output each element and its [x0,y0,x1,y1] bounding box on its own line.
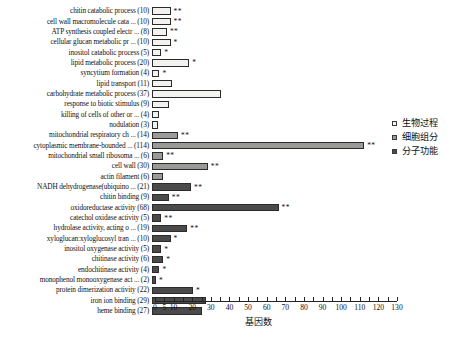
axis-tick-label: 90 [319,303,327,312]
significance-marker: * [174,39,178,46]
category-label: chitin catabolic process (10) [0,7,152,15]
bar [152,235,171,242]
bar [152,70,159,77]
bar-row: xyloglucan:xyloglucosyl tran ... (10)* [0,234,463,244]
category-label: chitinase activity (6) [0,255,152,263]
bar [152,276,156,283]
bar [152,163,208,170]
axis-tick-label: 5 [162,303,166,312]
bar-zone: * [152,37,463,47]
bar [152,287,193,294]
bar [152,225,187,232]
bar [152,142,364,149]
significance-marker: * [162,70,166,77]
bar-zone: ** [152,6,463,16]
bar [152,245,161,252]
significance-marker: ** [194,184,202,191]
category-label: nodulation (3) [0,121,152,129]
bar-row: actin filament (6) [0,172,463,182]
category-label: catechol oxidase activity (5) [0,214,152,222]
significance-marker: ** [170,28,178,35]
axis-tick-label: 80 [300,303,308,312]
bar-row: endochitinase activity (4)* [0,265,463,275]
legend-label: 生物过程 [402,118,438,128]
category-label: carbohydrate metabolic process (37) [0,90,152,98]
bar [152,18,171,25]
category-label: chitin binding (9) [0,193,152,201]
bar [152,80,172,87]
significance-marker: ** [211,163,219,170]
bar-row: chitin catabolic process (10)** [0,6,463,16]
bar-row: chitinase activity (6)* [0,254,463,264]
bar-zone: * [152,244,463,254]
bar-zone: ** [152,16,463,26]
axis-tick [155,297,156,301]
bar [152,39,171,46]
significance-marker: * [159,277,163,284]
bar [152,90,221,97]
axis-tick [397,297,398,301]
axis-tick [378,297,379,301]
bar-row: inositol catabolic process (5)* [0,47,463,57]
bar-row: catechol oxidase activity (5)** [0,213,463,223]
category-label: mitochondrial small ribosoma ... (6) [0,152,152,160]
bar-zone: ** [152,161,463,171]
axis-tick [220,297,221,301]
significance-marker: * [166,256,170,263]
bar [152,121,158,128]
bar-zone: ** [152,203,463,213]
axis-tick-label: 40 [226,303,234,312]
axis-tick [304,297,305,301]
x-axis [155,301,397,302]
category-label: monophenol monooxygenase act ... (2) [0,276,152,284]
bar-zone: * [152,68,463,78]
significance-marker: * [164,49,168,56]
bar-row: lipid transport (11) [0,78,463,88]
bar-zone: * [152,47,463,57]
axis-tick [350,297,351,301]
bar-row: NADH dehydrogenase(ubiquino ... (21)** [0,182,463,192]
significance-marker: * [162,266,166,273]
axis-tick [332,297,333,301]
category-label: oxidoreductase activity (68) [0,204,152,212]
axis-tick-label: 50 [244,303,252,312]
category-label: iron ion binding (29) [0,297,152,305]
axis-tick [388,297,389,301]
bar-row: chitin binding (9)** [0,192,463,202]
bar-zone: * [152,234,463,244]
bar-row: oxidoreductase activity (68)** [0,203,463,213]
bar [152,59,189,66]
bar-row: hydrolase activity, acting o ... (19)** [0,223,463,233]
category-label: inositol oxygenase activity (5) [0,245,152,253]
bar [152,173,163,180]
x-axis-label: 基因数 [0,315,463,328]
bar-row: inositol oxygenase activity (5)* [0,244,463,254]
category-label: lipid transport (11) [0,80,152,88]
legend-item-molecular-function[interactable]: 分子功能 [392,144,463,158]
bar-zone: ** [152,192,463,202]
bar-zone: ** [152,182,463,192]
significance-marker: * [192,59,196,66]
significance-marker: ** [174,8,182,15]
significance-marker: * [164,246,168,253]
bar [152,266,159,273]
legend-item-biological-process[interactable]: 生物过程 [392,116,463,130]
bar-row: cellular glucan metabolic pr ... (10)* [0,37,463,47]
legend-item-cellular-component[interactable]: 细胞组分 [392,130,463,144]
axis-tick [360,297,361,301]
go-enrichment-bar-chart: chitin catabolic process (10)**cell wall… [0,0,463,341]
bar-zone: ** [152,27,463,37]
category-label: heme binding (27) [0,307,152,315]
legend-label: 细胞组分 [402,132,438,142]
bar [152,183,191,190]
axis-tick [211,297,212,301]
category-label: cell wall macromolecule cata ... (10) [0,18,152,26]
legend-swatch-icon [392,135,397,140]
bar-zone [152,172,463,182]
category-label: syncytium formation (4) [0,69,152,77]
category-label: NADH dehydrogenase(ubiquino ... (21) [0,183,152,191]
axis-tick [369,297,370,301]
bar-zone: * [152,58,463,68]
bar [152,152,163,159]
axis-tick-label: 20 [188,303,196,312]
